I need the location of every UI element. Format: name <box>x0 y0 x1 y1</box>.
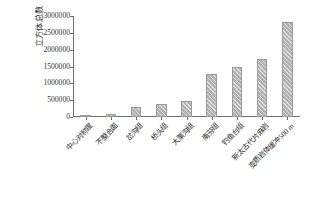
bar <box>282 22 293 117</box>
bar <box>206 74 217 117</box>
x-axis-tick-mark <box>262 117 263 120</box>
y-axis-tick-mark <box>70 117 73 118</box>
y-axis-tick-label: 2000000 <box>18 46 70 54</box>
y-axis-tick-mark <box>70 83 73 84</box>
y-axis-tick-label: 1000000 <box>18 79 70 87</box>
bar-chart: 立方体总数 3000000250000020000001500000100000… <box>0 0 315 206</box>
plot-area <box>73 16 300 117</box>
y-axis-tick-label: 3000000 <box>18 12 70 20</box>
y-axis-tick-label: 0 <box>18 113 70 121</box>
y-axis-tick-mark <box>70 33 73 34</box>
x-axis-tick-mark <box>111 117 112 120</box>
y-axis-tick-mark <box>70 67 73 68</box>
bar <box>257 59 268 117</box>
x-axis-tick-mark <box>136 117 137 120</box>
y-axis-tick-label: 500000 <box>18 96 70 104</box>
x-axis-tick-mark <box>187 117 188 120</box>
y-axis-tick-label: 2500000 <box>18 29 70 37</box>
x-axis-tick-mark <box>212 117 213 120</box>
x-axis-tick-mark <box>161 117 162 120</box>
y-axis-tick-mark <box>70 50 73 51</box>
bar <box>232 67 243 117</box>
x-axis-tick-mark <box>287 117 288 120</box>
y-axis-tick-label: 1500000 <box>18 63 70 71</box>
y-axis-tick-mark <box>70 100 73 101</box>
x-axis-tick-mark <box>86 117 87 120</box>
bar <box>181 101 192 117</box>
x-axis-tick-mark <box>237 117 238 120</box>
bar <box>131 107 142 117</box>
y-axis-tick-mark <box>70 16 73 17</box>
bar-series <box>73 16 300 117</box>
bar <box>156 104 167 117</box>
